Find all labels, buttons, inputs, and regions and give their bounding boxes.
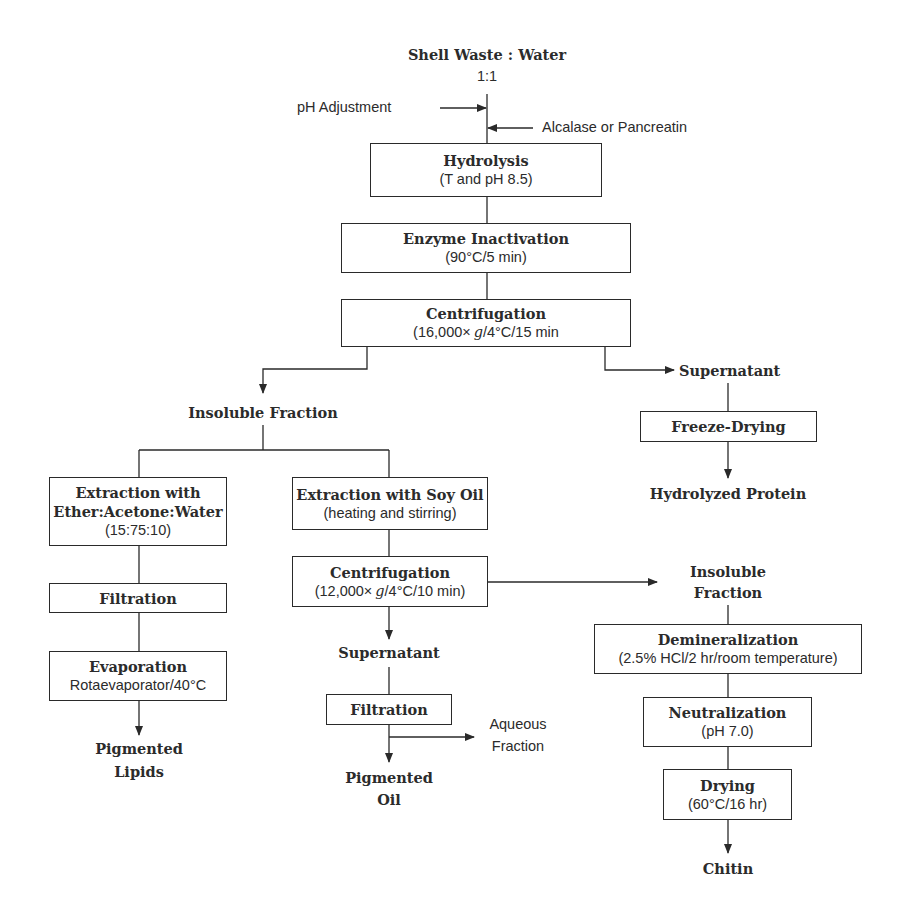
filtration-2-box: Filtration [326, 694, 452, 725]
drying-detail: (60°C/16 hr) [688, 795, 767, 814]
pigmented-lipids-line1: Pigmented [79, 739, 199, 758]
oil-supernatant-label: Supernatant [319, 643, 459, 662]
aqueous-fraction-line1: Aqueous [478, 715, 558, 734]
evaporation-detail: Rotaevaporator/40°C [70, 676, 206, 695]
demineralization-detail: (2.5% HCl/2 hr/room temperature) [618, 649, 837, 668]
insoluble-fraction-label: Insoluble Fraction [163, 403, 363, 422]
ph-adjustment-label: pH Adjustment [297, 98, 391, 117]
hydrolysis-box: Hydrolysis (T and pH 8.5) [370, 143, 602, 197]
drying-title: Drying [700, 776, 755, 795]
hydrolyzed-protein-label: Hydrolyzed Protein [628, 484, 828, 503]
evaporation-box: Evaporation Rotaevaporator/40°C [49, 651, 227, 701]
supernatant-label: Supernatant [679, 361, 780, 380]
centrifugation-2-title: Centrifugation [330, 563, 450, 582]
evaporation-title: Evaporation [89, 657, 187, 676]
enzyme-inactivation-box: Enzyme Inactivation (90°C/5 min) [341, 223, 631, 273]
soy-oil-extraction-detail: (heating and stirring) [324, 504, 457, 523]
ether-extraction-box: Extraction with Ether:Acetone:Water (15:… [49, 477, 227, 546]
freeze-drying-box: Freeze-Drying [640, 411, 817, 442]
neutralization-box: Neutralization (pH 7.0) [643, 697, 812, 747]
aqueous-fraction-line2: Fraction [478, 737, 558, 756]
start-title: Shell Waste : Water [387, 45, 587, 64]
hydrolysis-detail: (T and pH 8.5) [439, 170, 532, 189]
chitin-label: Chitin [678, 859, 778, 878]
centrifugation-2-box: Centrifugation (12,000× g/4°C/10 min) [292, 556, 488, 607]
pigmented-lipids-line2: Lipids [79, 762, 199, 781]
neutralization-title: Neutralization [669, 703, 787, 722]
soy-oil-extraction-title: Extraction with Soy Oil [296, 485, 483, 504]
demineralization-box: Demineralization (2.5% HCl/2 hr/room tem… [594, 624, 862, 674]
ether-extraction-title-1: Extraction with [76, 483, 201, 502]
centrifugation-2-detail: (12,000× g/4°C/10 min) [315, 582, 466, 601]
freeze-drying-title: Freeze-Drying [671, 417, 785, 436]
insoluble-fraction-2-line2: Fraction [668, 583, 788, 602]
demineralization-title: Demineralization [658, 630, 799, 649]
filtration-1-box: Filtration [49, 583, 227, 613]
insoluble-fraction-2-line1: Insoluble [668, 562, 788, 581]
drying-box: Drying (60°C/16 hr) [663, 769, 792, 820]
hydrolysis-title: Hydrolysis [443, 151, 528, 170]
pigmented-oil-line1: Pigmented [329, 768, 449, 787]
centrifugation-1-title: Centrifugation [426, 304, 546, 323]
enzyme-inactivation-title: Enzyme Inactivation [403, 229, 569, 248]
neutralization-detail: (pH 7.0) [701, 722, 753, 741]
flowchart-canvas: Shell Waste : Water 1:1 pH Adjustment Al… [0, 0, 903, 911]
centrifugation-1-detail: (16,000× g/4°C/15 min [413, 323, 559, 342]
soy-oil-extraction-box: Extraction with Soy Oil (heating and sti… [292, 477, 488, 530]
pigmented-oil-line2: Oil [329, 790, 449, 809]
ether-extraction-detail: (15:75:10) [105, 521, 171, 540]
enzyme-inactivation-detail: (90°C/5 min) [445, 248, 527, 267]
filtration-1-title: Filtration [99, 589, 176, 608]
start-ratio: 1:1 [447, 67, 527, 86]
centrifugation-1-box: Centrifugation (16,000× g/4°C/15 min [341, 299, 631, 347]
enzyme-input-label: Alcalase or Pancreatin [542, 118, 687, 137]
ether-extraction-title-2: Ether:Acetone:Water [53, 502, 222, 521]
filtration-2-title: Filtration [350, 700, 427, 719]
